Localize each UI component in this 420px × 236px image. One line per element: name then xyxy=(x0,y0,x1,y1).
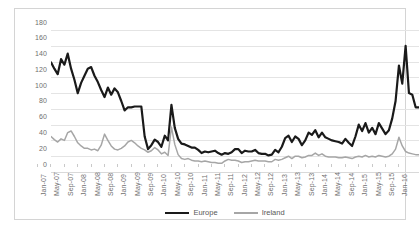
legend-item-europe[interactable]: Europe xyxy=(165,209,217,217)
x-tick-label-May-10: May-10 xyxy=(174,172,181,196)
x-tick-mark-Sep-15 xyxy=(385,164,386,167)
x-tick-label-Sep-15: Sep-15 xyxy=(388,173,395,196)
x-tick-label-Sep-08: Sep-08 xyxy=(107,173,114,196)
x-axis-tick-labels: Jan-07May-07Sep-07Jan-08May-08Sep-08Jan-… xyxy=(15,9,420,236)
x-tick-label-Jan-12: Jan-12 xyxy=(241,174,248,196)
x-tick-label-Jan-09: Jan-09 xyxy=(120,174,127,196)
x-tick-label-Sep-12: Sep-12 xyxy=(267,173,274,196)
x-tick-mark-Sep-11 xyxy=(224,164,225,167)
x-tick-label-Sep-07: Sep-07 xyxy=(67,173,74,196)
x-tick-label-Jan-16: Jan-16 xyxy=(401,174,408,196)
x-tick-mark-May-08 xyxy=(91,164,92,167)
x-tick-mark-Sep-12 xyxy=(264,164,265,167)
legend-swatch-europe-icon xyxy=(165,212,189,214)
x-tick-label-May-07: May-07 xyxy=(53,172,60,196)
legend-label-ireland: Ireland xyxy=(262,209,285,217)
x-tick-label-Sep-13: Sep-13 xyxy=(308,173,315,196)
x-tick-label-Jan-08: Jan-08 xyxy=(80,174,87,196)
x-tick-mark-May-07 xyxy=(50,164,51,167)
x-tick-mark-Jan-07 xyxy=(37,164,38,167)
x-tick-mark-Jan-13 xyxy=(278,164,279,167)
x-tick-label-Jan-13: Jan-13 xyxy=(281,174,288,196)
x-tick-mark-Jan-10 xyxy=(157,164,158,167)
x-tick-mark-Sep-10 xyxy=(184,164,185,167)
x-tick-label-May-12: May-12 xyxy=(254,172,261,196)
x-tick-label-Jan-15: Jan-15 xyxy=(361,174,368,196)
x-tick-label-Jan-11: Jan-11 xyxy=(201,175,208,196)
x-tick-mark-May-14 xyxy=(331,164,332,167)
x-tick-mark-Jan-14 xyxy=(318,164,319,167)
x-tick-label-Sep-11: Sep-11 xyxy=(227,173,234,196)
x-tick-label-Sep-09: Sep-09 xyxy=(147,173,154,196)
chart-frame: 020406080100120140160180 Jan-07May-07Sep… xyxy=(14,8,406,220)
x-tick-mark-Sep-07 xyxy=(64,164,65,167)
chart-figure: 020406080100120140160180 Jan-07May-07Sep… xyxy=(0,0,420,236)
x-tick-mark-Jan-08 xyxy=(77,164,78,167)
legend-item-ireland[interactable]: Ireland xyxy=(234,209,285,217)
x-tick-mark-May-10 xyxy=(171,164,172,167)
x-tick-mark-Sep-09 xyxy=(144,164,145,167)
legend-label-europe: Europe xyxy=(193,209,217,217)
x-tick-mark-Sep-14 xyxy=(345,164,346,167)
x-tick-mark-Jan-09 xyxy=(117,164,118,167)
x-tick-mark-Sep-08 xyxy=(104,164,105,167)
x-tick-label-Jan-10: Jan-10 xyxy=(160,174,167,196)
x-tick-label-May-11: May-11 xyxy=(214,173,221,196)
x-tick-label-May-15: May-15 xyxy=(375,172,382,196)
x-tick-label-May-14: May-14 xyxy=(334,172,341,196)
x-tick-label-Jan-07: Jan-07 xyxy=(40,174,47,196)
x-tick-mark-Jan-11 xyxy=(198,164,199,167)
x-tick-label-Sep-10: Sep-10 xyxy=(187,173,194,196)
x-tick-mark-Jan-12 xyxy=(238,164,239,167)
x-tick-mark-May-15 xyxy=(372,164,373,167)
x-tick-label-May-13: May-13 xyxy=(294,172,301,196)
x-tick-label-Jan-14: Jan-14 xyxy=(321,174,328,196)
x-tick-label-Sep-14: Sep-14 xyxy=(348,173,355,196)
x-tick-label-May-09: May-09 xyxy=(134,172,141,196)
chart-legend: Europe Ireland xyxy=(15,209,420,217)
x-tick-mark-Jan-15 xyxy=(358,164,359,167)
x-tick-mark-May-12 xyxy=(251,164,252,167)
x-tick-mark-Jan-16 xyxy=(398,164,399,167)
x-tick-mark-May-11 xyxy=(211,164,212,167)
x-tick-mark-May-09 xyxy=(131,164,132,167)
x-tick-label-May-08: May-08 xyxy=(94,172,101,196)
x-tick-mark-Sep-13 xyxy=(305,164,306,167)
legend-swatch-ireland-icon xyxy=(234,212,258,214)
x-tick-mark-May-13 xyxy=(291,164,292,167)
